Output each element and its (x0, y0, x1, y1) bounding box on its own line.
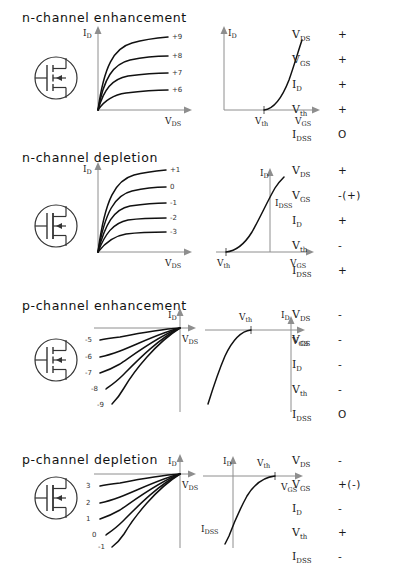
y-axis-label: ID (83, 164, 92, 176)
y-axis-label: ID (168, 456, 177, 468)
param-name: ID (292, 358, 338, 373)
param-sign: - (338, 358, 342, 370)
section-n-channel-enhancement: n-channel enhancement +9 (0, 0, 405, 140)
section-n-channel-depletion: n-channel depletion +1 0 (0, 140, 405, 288)
curve-label: 3 (86, 482, 90, 490)
param-name: VDS (292, 164, 338, 179)
param-sign: - (338, 550, 342, 562)
curve-label: +7 (172, 69, 182, 77)
param-sign: - (338, 308, 342, 320)
param-sign: + (338, 214, 347, 226)
idss-label: IDSS (275, 198, 293, 210)
parameter-table: VDS- VGS+(-) ID- Vth+ IDSS- (292, 454, 397, 567)
output-characteristic-plot: +1 0 -1 -2 -3 ID VDS (80, 162, 198, 270)
param-name: Vth (292, 103, 338, 118)
x-axis-label: VDS (164, 258, 181, 270)
curve-label: -9 (97, 401, 104, 409)
param-name: IDSS (292, 264, 338, 279)
threshold-label: Vth (238, 312, 252, 324)
param-row: IDSS+ (292, 264, 397, 289)
curve-label: -7 (85, 369, 92, 377)
y-axis-label: ID (260, 168, 269, 180)
param-sign: - (338, 502, 342, 514)
param-name: ID (292, 78, 338, 93)
param-name: VDS (292, 454, 338, 469)
param-row: Vth+ (292, 526, 397, 550)
param-name: Vth (292, 383, 338, 398)
param-row: VDS+ (292, 164, 397, 189)
curve-label: +8 (172, 52, 182, 60)
param-row: IDSS- (292, 550, 397, 567)
x-axis-label: VDS (164, 116, 181, 128)
param-sign: + (338, 526, 347, 538)
param-sign: - (338, 383, 342, 395)
param-row: VGS+(-) (292, 478, 397, 502)
y-axis-label: ID (168, 310, 177, 322)
param-row: VGS+ (292, 53, 397, 78)
param-name: Vth (292, 239, 338, 254)
param-sign: + (338, 28, 347, 40)
output-characteristic-plot: +9 +8 +7 +6 ID VDS (80, 26, 198, 126)
param-name: IDSS (292, 550, 338, 565)
param-name: ID (292, 214, 338, 229)
y-axis-label: ID (228, 28, 237, 40)
param-row: VDS- (292, 308, 397, 333)
curve-label: -8 (91, 385, 98, 393)
curve-label: +6 (172, 86, 183, 94)
curve-label: -6 (85, 353, 93, 361)
param-sign: + (338, 53, 347, 65)
param-name: VGS (292, 333, 338, 348)
param-sign: + (338, 264, 347, 276)
section-p-channel-enhancement: p-channel enhancement (0, 288, 405, 436)
param-name: VDS (292, 308, 338, 323)
param-name: VGS (292, 478, 338, 493)
threshold-label: Vth (256, 458, 270, 470)
output-characteristic-plot: 3 2 1 0 -1 ID VDS (80, 450, 205, 550)
param-row: IDSSO (292, 408, 397, 433)
parameter-table: VDS- VGS- ID- Vth- IDSSO (292, 308, 397, 433)
y-axis-label: ID (83, 28, 92, 40)
param-row: VGS-(+) (292, 189, 397, 214)
parameter-table: VDS+ VGS-(+) ID+ Vth- IDSS+ (292, 164, 397, 289)
curve-label: 0 (92, 531, 96, 539)
section-title: n-channel enhancement (22, 10, 187, 25)
param-sign: - (338, 333, 342, 345)
param-sign: - (338, 239, 342, 251)
param-sign: + (338, 78, 347, 90)
param-row: Vth- (292, 239, 397, 264)
mosfet-symbol-n-depletion (30, 200, 82, 252)
param-row: ID+ (292, 78, 397, 103)
curve-label: 0 (170, 183, 174, 191)
param-row: ID+ (292, 214, 397, 239)
param-name: VDS (292, 28, 338, 43)
curve-label: +1 (170, 166, 180, 174)
y-axis-label: ID (223, 456, 232, 468)
curve-label: -3 (170, 228, 177, 236)
curve-label: +9 (172, 33, 182, 41)
param-row: ID- (292, 502, 397, 526)
param-name: IDSS (292, 408, 338, 423)
param-row: VDS+ (292, 28, 397, 53)
mosfet-symbol-p-depletion (30, 472, 82, 524)
y-axis-label: ID (281, 310, 290, 322)
param-sign: +(-) (338, 478, 361, 490)
param-sign: O (338, 128, 347, 140)
mosfet-symbol-p-enhancement (30, 334, 82, 386)
param-name: VGS (292, 53, 338, 68)
parameter-table: VDS+ VGS+ ID+ Vth+ IDSSO (292, 28, 397, 153)
idss-label: IDSS (201, 524, 219, 536)
param-row: ID- (292, 358, 397, 383)
threshold-label: Vth (254, 116, 268, 128)
param-sign: -(+) (338, 189, 361, 201)
output-characteristic-plot: -5 -6 -7 -8 -9 ID VDS (80, 306, 205, 418)
param-name: ID (292, 502, 338, 517)
param-sign: O (338, 408, 347, 420)
curve-label: -1 (170, 199, 177, 207)
curve-label: 2 (86, 499, 90, 507)
curve-label: -2 (170, 214, 177, 222)
curve-label: -5 (85, 336, 92, 344)
mosfet-symbol-n-enhancement (30, 52, 82, 104)
param-sign: + (338, 164, 347, 176)
section-p-channel-depletion: p-channel depletion 3 2 (0, 436, 405, 552)
param-name: Vth (292, 526, 338, 541)
